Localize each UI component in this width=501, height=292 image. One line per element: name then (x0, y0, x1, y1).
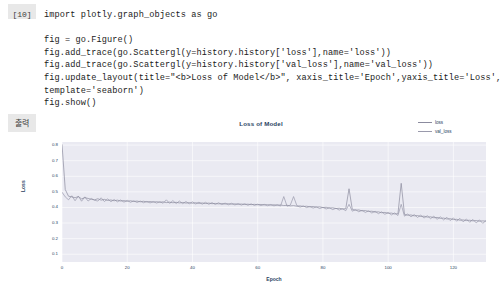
legend-label-val-loss: val_loss (435, 128, 452, 135)
y-tick-label: 0.4 (28, 204, 58, 209)
series-line-val-loss (62, 192, 486, 223)
chart-svg (62, 142, 486, 262)
code-line-3: fig.add_trace(go.Scattergl(y=history.his… (44, 47, 501, 60)
grid-lines (62, 142, 486, 262)
code-line-4: fig.add_trace(go.Scattergl(y=history.his… (44, 59, 501, 72)
x-tick-label: 20 (125, 265, 130, 270)
code-cell[interactable]: [10] import plotly.graph_objects as go f… (8, 4, 499, 132)
x-axis-title: Epoch (62, 276, 486, 282)
x-tick-label: 40 (190, 265, 195, 270)
chart-legend[interactable]: loss val_loss (418, 119, 488, 136)
legend-swatch-val-loss (418, 131, 432, 132)
code-line-6: template='seaborn') (44, 85, 501, 98)
x-tick-label: 0 (61, 265, 63, 270)
legend-swatch-loss (418, 122, 432, 123)
y-tick-label: 0.5 (28, 189, 58, 194)
y-axis-title: Loss (20, 180, 26, 192)
legend-item-loss[interactable]: loss (418, 119, 488, 126)
y-tick-label: 0.8 (28, 142, 58, 147)
y-tick-label: 0.1 (28, 251, 58, 256)
x-tick-label: 120 (450, 265, 457, 270)
series-line-loss (62, 144, 486, 221)
x-tick-label: 80 (320, 265, 325, 270)
x-tick-label: 60 (255, 265, 260, 270)
code-editor[interactable]: import plotly.graph_objects as go fig = … (36, 4, 501, 114)
execution-count-prompt[interactable]: [10] (8, 4, 36, 19)
code-cell-row: [10] import plotly.graph_objects as go f… (8, 4, 499, 114)
y-tick-label: 0.6 (28, 173, 58, 178)
code-line-7: fig.show() (44, 97, 501, 110)
x-tick-label: 100 (384, 265, 391, 270)
y-tick-label: 0.2 (28, 236, 58, 241)
code-line-5: fig.update_layout(title="<b>Loss of Mode… (44, 72, 501, 85)
legend-item-val-loss[interactable]: val_loss (418, 128, 488, 135)
plotly-figure[interactable]: Loss of Model loss val_loss Loss Epoch 0… (26, 118, 496, 288)
y-tick-label: 0.7 (28, 158, 58, 163)
code-line-2: fig = go.Figure() (44, 34, 501, 47)
plot-area[interactable] (62, 142, 486, 262)
legend-label-loss: loss (435, 119, 443, 126)
code-line-1: import plotly.graph_objects as go (44, 9, 501, 22)
y-tick-label: 0.3 (28, 220, 58, 225)
code-line-blank (44, 22, 501, 35)
